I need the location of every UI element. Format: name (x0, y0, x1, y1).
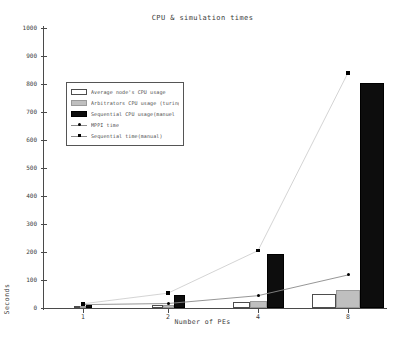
white-swatch-icon (71, 89, 87, 95)
legend-item-sequential-time: Sequential time(manual) (71, 130, 179, 141)
circle-data-marker (257, 294, 260, 297)
square-data-marker (256, 249, 260, 253)
legend-label: Average node's CPU usage (91, 89, 166, 95)
line-series-host (43, 28, 385, 308)
y-tick-label: 600 (0, 136, 37, 143)
chart-figure: CPU & simulation times 01002003004005006… (0, 0, 405, 348)
chart-legend: Average node's CPU usage Arbitrators CPU… (66, 82, 184, 146)
circle-marker-icon (71, 122, 87, 128)
y-tick-label: 200 (0, 248, 37, 255)
line-path (83, 275, 348, 305)
y-tick-label: 800 (0, 80, 37, 87)
y-tick-label: 900 (0, 52, 37, 59)
y-axis-label: Seconds (3, 284, 11, 315)
legend-item-mppi-time: MPPI time (71, 119, 179, 130)
square-data-marker (346, 71, 350, 75)
legend-item-sequential-cpu: Sequential CPU usage(manuel (71, 108, 179, 119)
legend-label: Sequential CPU usage(manuel (91, 111, 175, 117)
circle-data-marker (167, 302, 170, 305)
square-data-marker (166, 291, 170, 295)
legend-label: Arbitrators CPU usage (turing (91, 100, 179, 106)
plot-area (43, 28, 385, 308)
square-marker-icon (71, 133, 87, 139)
y-tick-label: 100 (0, 276, 37, 283)
x-axis-line (41, 308, 387, 309)
y-tick-label: 300 (0, 220, 37, 227)
y-tick-label: 1000 (0, 24, 37, 31)
chart-title: CPU & simulation times (0, 14, 405, 22)
legend-item-arbitrators-cpu: Arbitrators CPU usage (turing (71, 97, 179, 108)
gray-swatch-icon (71, 100, 87, 106)
y-tick-mark (41, 308, 47, 309)
y-axis-label-host: Seconds (14, 145, 15, 146)
black-swatch-icon (71, 111, 87, 117)
y-tick-label: 500 (0, 164, 37, 171)
legend-label: MPPI time (91, 122, 119, 128)
y-tick-label: 400 (0, 192, 37, 199)
square-data-marker (81, 302, 85, 306)
legend-item-avg-node-cpu: Average node's CPU usage (71, 86, 179, 97)
y-tick-label: 700 (0, 108, 37, 115)
legend-label: Sequential time(manual) (91, 133, 163, 139)
x-axis-label: Number of PEs (0, 318, 405, 326)
